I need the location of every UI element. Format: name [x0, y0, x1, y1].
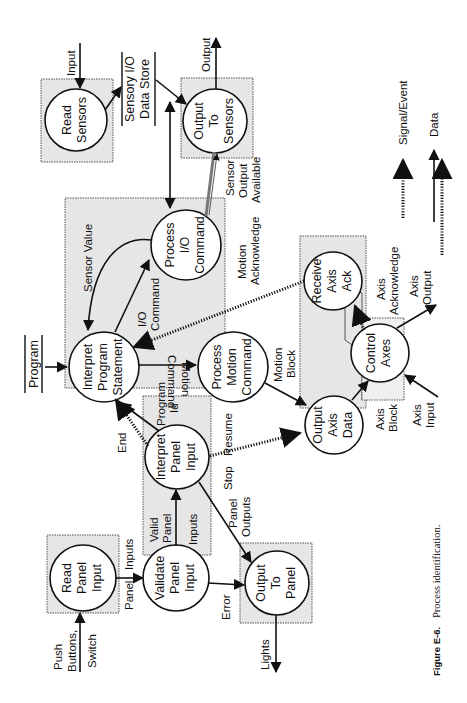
- receive-axis-line3: Ack: [340, 270, 354, 292]
- interpret-panel-line2: Panel: [169, 441, 183, 473]
- validate-panel-line1: Validate: [153, 556, 167, 600]
- read-panel-line2: Panel: [75, 562, 89, 594]
- process-interpret-program-statement[interactable]: Interpret Program Statement: [69, 332, 139, 402]
- read-sensors-line2: Sensors: [75, 97, 89, 143]
- label-error: Error: [220, 594, 232, 620]
- process-motion-line1: Process: [210, 344, 224, 389]
- label-valid-panel-3: Inputs: [187, 513, 199, 545]
- label-push-2: Buttons,: [66, 630, 78, 672]
- label-panel-outputs-1: Panel: [227, 499, 239, 528]
- legend-signal-label: Signal/Event: [397, 80, 409, 145]
- label-program-id-1: Program: [155, 382, 167, 426]
- control-axes-line2: Axes: [379, 339, 393, 367]
- label-axis-input-1: Axis: [411, 404, 423, 426]
- label-motion-command-2: Command: [166, 355, 178, 408]
- label-io-command-1: I/O: [136, 312, 148, 327]
- process-motion-line3: Command: [240, 338, 254, 396]
- process-interpret-panel-input[interactable]: Interpret Panel Input: [145, 425, 209, 489]
- output-to-sensors-line3: Sensors: [222, 98, 236, 144]
- flow-error: [208, 583, 244, 585]
- process-motion-line2: Motion: [225, 348, 239, 386]
- label-axis-output-2: Output: [421, 270, 433, 305]
- label-axis-output-1: Axis: [408, 275, 420, 297]
- process-output-axis-data[interactable]: Output Axis Data: [305, 396, 363, 454]
- program-data-store[interactable]: Program: [25, 335, 42, 393]
- output-panel-line3: Panel: [284, 567, 298, 599]
- label-panel-inputs-2: Inputs: [123, 538, 135, 570]
- process-io-line2: I/O: [178, 236, 192, 253]
- validate-panel-line3: Input: [183, 564, 197, 592]
- output-to-sensors-line2: To: [207, 114, 221, 127]
- read-panel-line3: Input: [90, 564, 104, 592]
- process-receive-axis-ack[interactable]: Receive Axis Ack: [304, 252, 362, 310]
- sensory-io-data-store[interactable]: Sensory I/O Data Store: [122, 52, 155, 126]
- label-sensor-output-2: Output: [237, 163, 249, 198]
- read-panel-line1: Read: [60, 563, 74, 593]
- process-motion-command[interactable]: Process Motion Command: [198, 332, 268, 402]
- label-io-command-2: Command: [149, 278, 161, 331]
- label-program-id-2: Id: [168, 403, 180, 413]
- label-lights: Lights: [259, 639, 271, 670]
- process-output-to-sensors[interactable]: Output To Sensors: [183, 89, 247, 153]
- interpret-program-line3: Statement: [111, 338, 125, 396]
- label-axis-input-2: Input: [424, 402, 436, 428]
- label-motion-ack-2: Acknowledge: [249, 217, 261, 285]
- interpret-panel-line3: Input: [184, 443, 198, 471]
- interpret-program-line1: Interpret: [81, 343, 95, 390]
- label-axis-block-2: Block: [387, 404, 399, 432]
- label-panel-inputs-1: Panel: [123, 581, 135, 610]
- label-output: Output: [200, 37, 212, 72]
- output-panel-line2: To: [269, 576, 283, 589]
- legend-data-label: Data: [428, 112, 440, 137]
- process-validate-panel-input[interactable]: Validate Panel Input: [143, 545, 209, 611]
- sensory-store-line2: Data Store: [138, 59, 152, 119]
- label-push-1: Push: [52, 644, 64, 670]
- process-output-to-panel[interactable]: Output To Panel: [245, 551, 309, 615]
- read-sensors-line1: Read: [60, 105, 74, 135]
- label-panel-outputs-2: Outputs: [240, 496, 252, 537]
- label-input: Input: [65, 50, 77, 76]
- label-axis-ack-1: Axis: [375, 278, 387, 300]
- caption-text: Process identification.: [431, 525, 442, 618]
- output-panel-line1: Output: [254, 564, 268, 602]
- figure-caption: Figure E-6. Process identification.: [431, 525, 442, 676]
- label-valid-panel-1: Valid: [148, 517, 160, 542]
- label-push-3: Switch: [86, 634, 98, 668]
- legend: Signal/Event Data: [397, 80, 440, 222]
- process-io-command[interactable]: Process I/O Command: [151, 210, 221, 280]
- label-motion-block-2: Block: [285, 350, 297, 378]
- validate-panel-line2: Panel: [168, 562, 182, 594]
- program-store-label: Program: [27, 340, 41, 388]
- receive-axis-line1: Receive: [310, 258, 324, 303]
- process-io-line3: Command: [193, 216, 207, 274]
- output-axis-line2: Axis: [326, 413, 340, 437]
- process-read-panel-input[interactable]: Read Panel Input: [50, 545, 116, 611]
- process-control-axes[interactable]: Control Axes: [351, 324, 409, 382]
- process-io-line1: Process: [163, 222, 177, 267]
- label-resume: Resume: [222, 413, 234, 456]
- label-end: End: [116, 433, 128, 453]
- process-identification-diagram: Read Sensors Output To Sensors Process I…: [0, 0, 467, 703]
- process-read-sensors[interactable]: Read Sensors: [45, 89, 107, 151]
- output-axis-line1: Output: [311, 406, 325, 444]
- label-valid-panel-2: Panel: [161, 514, 173, 543]
- sensory-store-line1: Sensory I/O: [123, 56, 137, 122]
- label-motion-ack-1: Motion: [236, 244, 248, 279]
- receive-axis-line2: Axis: [325, 269, 339, 293]
- label-axis-ack-2: Acknowledge: [388, 247, 400, 315]
- label-sensor-output-3: Available: [250, 157, 262, 203]
- flow-axis-output: [397, 305, 436, 328]
- label-motion-block-1: Motion: [272, 347, 284, 382]
- output-to-sensors-line1: Output: [192, 102, 206, 140]
- label-motion-command-1: Motion: [180, 362, 192, 397]
- label-axis-block-1: Axis: [374, 408, 386, 430]
- interpret-program-line2: Program: [96, 343, 110, 391]
- interpret-panel-line1: Interpret: [154, 433, 168, 480]
- label-stop: Stop: [222, 466, 234, 490]
- control-axes-line1: Control: [364, 333, 378, 373]
- caption-label: Figure E-6.: [431, 627, 442, 676]
- flow-axis-input: [405, 375, 438, 397]
- label-sensor-output-1: Sensor: [224, 159, 236, 196]
- output-axis-line3: Data: [341, 412, 355, 438]
- label-sensor-value: Sensor Value: [82, 224, 94, 292]
